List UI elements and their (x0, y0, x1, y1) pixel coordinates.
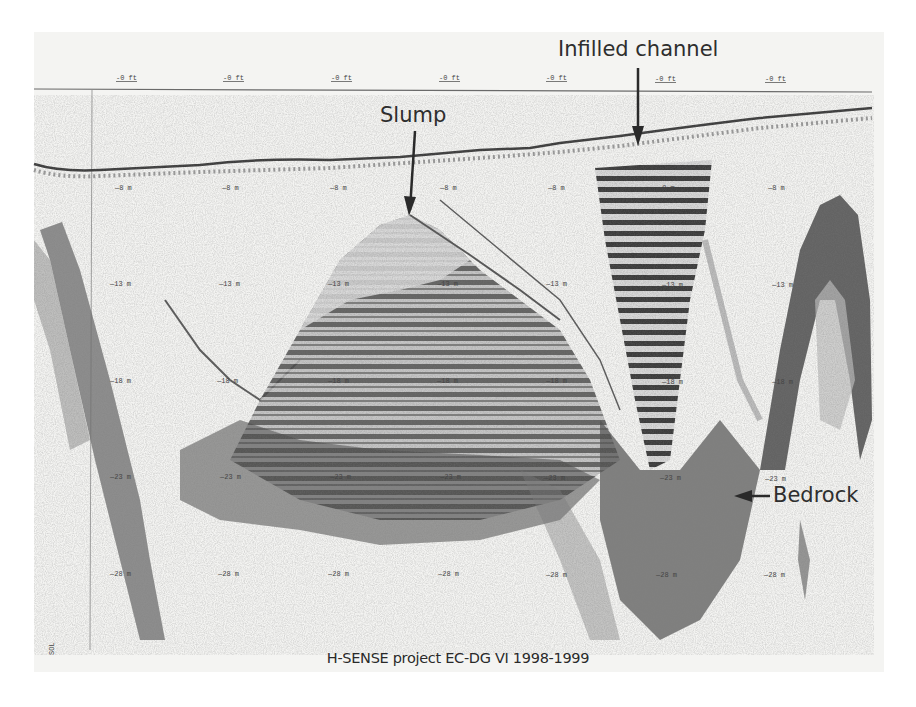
svg-text:—23 m: —23 m (329, 473, 351, 481)
svg-text:—28 m: —28 m (545, 571, 567, 579)
svg-text:-0 ft: -0 ft (116, 74, 137, 82)
svg-text:—18 m: —18 m (109, 377, 131, 385)
svg-text:—18 m: —18 m (545, 377, 567, 385)
svg-text:-0 ft: -0 ft (655, 75, 676, 83)
svg-text:—23 m: —23 m (439, 473, 461, 481)
svg-text:—28 m: —28 m (327, 570, 349, 578)
slump-label: Slump (380, 103, 446, 127)
svg-text:—13 m: —13 m (436, 280, 458, 288)
svg-text:—23 m: —23 m (543, 474, 565, 482)
bedrock-label: Bedrock (773, 483, 858, 507)
svg-text:-0 ft: -0 ft (439, 74, 460, 82)
svg-text:—28 m: —28 m (437, 570, 459, 578)
svg-text:—18 m: —18 m (436, 377, 458, 385)
svg-text:—23 m: —23 m (109, 473, 131, 481)
svg-text:-0 ft: -0 ft (546, 74, 567, 82)
svg-text:—18 m: —18 m (327, 377, 349, 385)
svg-text:—18 m: —18 m (771, 378, 793, 386)
svg-text:—13 m: —13 m (218, 280, 240, 288)
figure-caption: H-SENSE project EC-DG VI 1998-1999 (0, 650, 916, 666)
svg-text:—28 m: —28 m (763, 571, 785, 579)
svg-text:—18 m: —18 m (661, 378, 683, 386)
svg-text:-0 ft: -0 ft (765, 75, 786, 83)
svg-text:—13 m: —13 m (661, 281, 683, 289)
svg-text:—23 m: —23 m (764, 475, 786, 483)
svg-text:—23 m: —23 m (219, 473, 241, 481)
svg-text:—8 m: —8 m (439, 184, 457, 192)
svg-text:-0 ft: -0 ft (331, 74, 352, 82)
svg-text:—8 m: —8 m (657, 184, 675, 192)
seismic-profile: -0 ft -0 ft -0 ft -0 ft -0 ft -0 ft -0 f… (0, 0, 916, 707)
svg-text:—8 m: —8 m (329, 184, 347, 192)
svg-text:—23 m: —23 m (659, 474, 681, 482)
svg-text:—18 m: —18 m (216, 377, 238, 385)
svg-text:-0 ft: -0 ft (223, 74, 244, 82)
svg-text:—13 m: —13 m (545, 280, 567, 288)
infilled-channel-label: Infilled channel (558, 37, 718, 61)
svg-text:—8 m: —8 m (767, 184, 785, 192)
svg-text:—13 m: —13 m (327, 280, 349, 288)
svg-text:—13 m: —13 m (771, 281, 793, 289)
svg-text:—28 m: —28 m (655, 571, 677, 579)
svg-text:—13 m: —13 m (109, 280, 131, 288)
svg-text:—8 m: —8 m (114, 184, 132, 192)
svg-text:—8 m: —8 m (547, 184, 565, 192)
svg-text:—28 m: —28 m (109, 570, 131, 578)
svg-text:—28 m: —28 m (217, 570, 239, 578)
svg-text:—8 m: —8 m (221, 184, 239, 192)
